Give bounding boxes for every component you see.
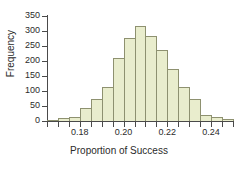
- x-axis-tick: [156, 122, 157, 127]
- y-axis-tick-label: 300: [12, 26, 40, 35]
- y-axis-tick-label: 0: [12, 116, 40, 125]
- histogram-chart: Frequency 050100150200250300350 0.180.20…: [0, 0, 238, 179]
- x-axis-tick-label: 0.24: [196, 128, 226, 137]
- y-axis-tick-label: 350: [12, 11, 40, 20]
- x-axis-tick-label: 0.20: [109, 128, 139, 137]
- histogram-bars: [47, 16, 233, 121]
- x-axis-tick: [47, 122, 48, 127]
- x-axis-tick: [113, 122, 114, 127]
- x-axis-tick-label: 0.18: [65, 128, 95, 137]
- plot-area: [47, 16, 233, 121]
- x-axis-tick: [222, 122, 223, 127]
- x-axis-tick: [233, 122, 234, 127]
- y-axis-tick-label: 250: [12, 41, 40, 50]
- x-axis-line: [47, 121, 234, 122]
- x-axis-tick: [69, 122, 70, 127]
- y-axis-tick-label: 100: [12, 86, 40, 95]
- x-axis-tick: [91, 122, 92, 127]
- x-axis-tick: [189, 122, 190, 127]
- y-axis-tick-label: 50: [12, 101, 40, 110]
- x-axis-tick: [102, 122, 103, 127]
- y-axis-tick-label: 150: [12, 71, 40, 80]
- x-axis-tick: [135, 122, 136, 127]
- x-axis-label: Proportion of Success: [0, 145, 238, 156]
- x-axis-tick: [200, 122, 201, 127]
- x-axis-tick: [145, 122, 146, 127]
- x-axis-tick: [58, 122, 59, 127]
- x-axis-tick-label: 0.22: [152, 128, 182, 137]
- histogram-bar: [222, 119, 234, 121]
- x-axis-tick: [178, 122, 179, 127]
- y-axis-tick-label: 200: [12, 56, 40, 65]
